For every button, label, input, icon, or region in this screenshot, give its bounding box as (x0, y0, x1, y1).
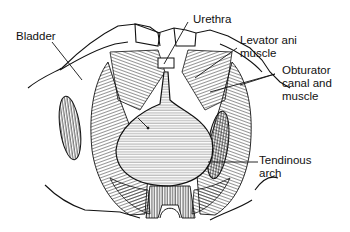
label-tendinous-line2: arch (259, 167, 311, 180)
obturator-muscle-left (56, 95, 85, 161)
label-obturator-line3: muscle (282, 90, 332, 103)
label-tendinous-arch: Tendinous arch (259, 154, 311, 180)
label-obturator: Obturator canal and muscle (282, 64, 332, 103)
urethra-shape (158, 58, 174, 68)
label-obturator-line1: Obturator (282, 64, 332, 77)
label-bladder: Bladder (16, 30, 56, 43)
label-levator-line1: Levator ani (240, 34, 297, 47)
label-tendinous-line1: Tendinous (259, 154, 311, 167)
label-urethra: Urethra (193, 13, 231, 26)
diagram-canvas: Bladder Urethra Levator ani muscle Obtur… (0, 0, 350, 232)
label-obturator-line2: canal and (282, 77, 332, 90)
label-levator-ani: Levator ani muscle (240, 34, 297, 60)
label-levator-line2: muscle (240, 47, 297, 60)
